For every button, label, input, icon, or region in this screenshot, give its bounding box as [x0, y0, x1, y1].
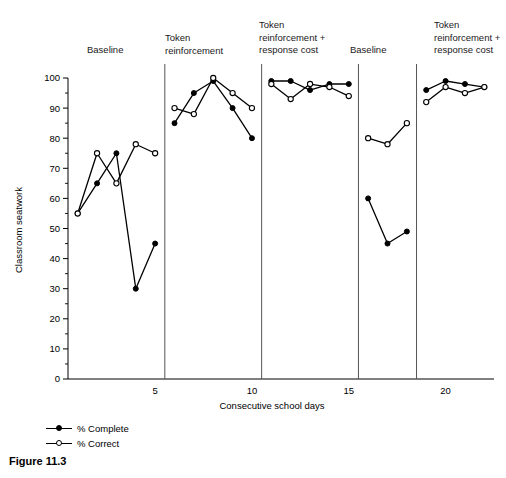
- filled-circle-marker-icon: [56, 425, 62, 431]
- data-point-correct: [230, 90, 235, 95]
- legend-label-complete: % Complete: [77, 423, 129, 434]
- data-point-correct: [191, 112, 196, 117]
- data-point-correct: [346, 93, 351, 98]
- phase-divider-lines: [165, 64, 417, 379]
- data-point-complete: [230, 106, 235, 111]
- legend-label-correct: % Correct: [77, 438, 119, 449]
- data-point-complete: [249, 136, 254, 141]
- data-point-correct: [211, 75, 216, 80]
- data-point-correct: [482, 84, 487, 89]
- x-axis-tick-label: 5: [152, 385, 157, 396]
- y-axis-tick-label: 40: [49, 253, 60, 264]
- data-point-correct: [366, 136, 371, 141]
- y-axis-title: Classroom seatwork: [13, 187, 24, 273]
- series-correct: [75, 75, 487, 216]
- figure-caption: Figure 11.3: [9, 455, 66, 467]
- data-point-complete: [308, 88, 313, 93]
- figure-11-3: Baseline Token reinforcement Token reinf…: [0, 0, 506, 478]
- data-point-complete: [404, 229, 409, 234]
- data-point-complete: [462, 82, 467, 87]
- legend-sample-complete: [46, 422, 72, 434]
- data-point-correct: [133, 142, 138, 147]
- data-point-complete: [385, 241, 390, 246]
- x-axis-tick-label: 20: [440, 385, 451, 396]
- y-axis-tick-label: 70: [49, 163, 60, 174]
- data-point-correct: [462, 90, 467, 95]
- series-complete: [75, 79, 487, 292]
- data-point-complete: [424, 88, 429, 93]
- x-axis: 5101520: [68, 379, 494, 396]
- data-point-correct: [75, 211, 80, 216]
- data-point-correct: [269, 81, 274, 86]
- data-point-correct: [385, 142, 390, 147]
- data-point-correct: [288, 96, 293, 101]
- data-point-complete: [133, 286, 138, 291]
- open-circle-marker-icon: [56, 440, 62, 446]
- y-axis-tick-label: 10: [49, 343, 60, 354]
- data-point-correct: [172, 106, 177, 111]
- data-point-complete: [191, 91, 196, 96]
- y-axis-tick-label: 20: [49, 313, 60, 324]
- data-point-complete: [95, 181, 100, 186]
- data-point-correct: [114, 181, 119, 186]
- data-point-complete: [114, 151, 119, 156]
- y-axis-tick-label: 50: [49, 223, 60, 234]
- data-point-correct: [307, 81, 312, 86]
- data-series-group: [75, 75, 487, 291]
- data-point-correct: [443, 84, 448, 89]
- data-point-correct: [424, 99, 429, 104]
- y-axis-tick-label: 90: [49, 103, 60, 114]
- data-point-correct: [153, 151, 158, 156]
- data-point-complete: [288, 79, 293, 84]
- y-axis-tick-label: 80: [49, 133, 60, 144]
- data-point-correct: [327, 84, 332, 89]
- y-axis-tick-label: 60: [49, 193, 60, 204]
- data-point-complete: [172, 121, 177, 126]
- data-point-complete: [153, 241, 158, 246]
- x-axis-tick-label: 15: [343, 385, 354, 396]
- data-point-complete: [366, 196, 371, 201]
- x-axis-tick-label: 10: [247, 385, 258, 396]
- y-axis: 0102030405060708090100: [44, 72, 68, 384]
- legend-entry-complete: % Complete: [46, 421, 129, 435]
- legend-sample-correct: [46, 437, 72, 449]
- data-point-correct: [404, 121, 409, 126]
- data-point-correct: [249, 106, 254, 111]
- x-axis-title: Consecutive school days: [219, 400, 324, 411]
- chart-plot-area: 0102030405060708090100 5101520 Consecuti…: [0, 0, 506, 420]
- data-point-complete: [443, 79, 448, 84]
- y-axis-tick-label: 100: [44, 72, 60, 83]
- legend-entry-correct: % Correct: [46, 436, 119, 450]
- data-point-complete: [346, 82, 351, 87]
- y-axis-tick-label: 30: [49, 283, 60, 294]
- y-axis-tick-label: 0: [55, 373, 60, 384]
- data-point-correct: [94, 151, 99, 156]
